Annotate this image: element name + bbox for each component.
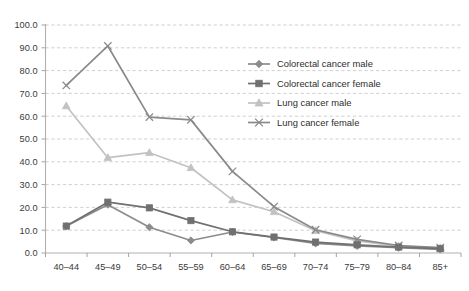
data-point-marker-square: [229, 229, 235, 235]
x-axis-tick-label: 65–69: [261, 262, 287, 272]
data-point-marker-square: [188, 218, 194, 224]
data-point-marker-square: [63, 223, 69, 229]
y-axis-tick-label: 0.0: [25, 248, 38, 258]
y-axis-tick-label: 100.0: [15, 20, 38, 30]
data-point-marker-square: [437, 246, 443, 252]
y-axis-tick-label: 10.0: [20, 226, 38, 236]
x-axis-tick-label: 40–44: [53, 262, 79, 272]
y-axis-tick-label: 70.0: [20, 89, 38, 99]
data-point-marker-square: [312, 239, 318, 245]
data-point-marker-square: [396, 244, 402, 250]
y-axis-tick-label: 50.0: [20, 134, 38, 144]
data-point-marker-square: [256, 80, 263, 87]
legend-item-label: Lung cancer male: [277, 97, 352, 108]
data-point-marker-triangle: [146, 149, 154, 156]
x-axis-tick-label: 45–49: [95, 262, 121, 272]
legend-item-label: Colorectal cancer male: [277, 58, 373, 69]
chart-container: 0.010.020.030.040.050.060.070.080.090.01…: [0, 0, 469, 291]
data-point-marker-square: [146, 205, 152, 211]
data-point-marker-square: [105, 199, 111, 205]
data-point-marker-triangle: [62, 102, 70, 109]
y-axis-tick-label: 20.0: [20, 203, 38, 213]
y-axis-tick-label: 90.0: [20, 43, 38, 53]
x-axis-tick-label: 80–84: [386, 262, 412, 272]
legend-item[interactable]: Lung cancer male: [248, 97, 352, 108]
series-lung-cancer-male: [62, 102, 444, 251]
series-line: [66, 46, 440, 248]
legend-item[interactable]: Colorectal cancer female: [248, 78, 381, 89]
x-axis-tick-label: 50–54: [137, 262, 163, 272]
y-axis-tick-label: 60.0: [20, 112, 38, 122]
legend-item-label: Colorectal cancer female: [277, 78, 381, 89]
data-point-marker-diamond: [255, 60, 263, 68]
legend-item[interactable]: Colorectal cancer male: [248, 58, 373, 69]
gridlines: 0.010.020.030.040.050.060.070.080.090.01…: [15, 20, 462, 258]
x-axis-tick-label: 55–59: [178, 262, 204, 272]
data-point-marker-square: [271, 234, 277, 240]
series-line: [66, 106, 440, 248]
data-point-marker-square: [354, 242, 360, 248]
series-lung-cancer-female: [63, 42, 444, 251]
x-axis-tick-label: 60–64: [220, 262, 246, 272]
legend-item-label: Lung cancer female: [277, 117, 359, 128]
x-axis-tick-label: 70–74: [303, 262, 329, 272]
x-axis-tick-label: 85+: [432, 262, 448, 272]
line-chart: 0.010.020.030.040.050.060.070.080.090.01…: [0, 0, 469, 291]
series-line: [66, 202, 440, 249]
y-axis-tick-label: 80.0: [20, 66, 38, 76]
y-axis-tick-label: 40.0: [20, 157, 38, 167]
x-axis-ticks: 40–4445–4950–5455–5960–6465–6970–7475–79…: [46, 253, 462, 272]
y-axis-tick-label: 30.0: [20, 180, 38, 190]
data-point-marker-diamond: [187, 237, 194, 244]
legend-item[interactable]: Lung cancer female: [248, 117, 359, 128]
x-axis-tick-label: 75–79: [344, 262, 370, 272]
